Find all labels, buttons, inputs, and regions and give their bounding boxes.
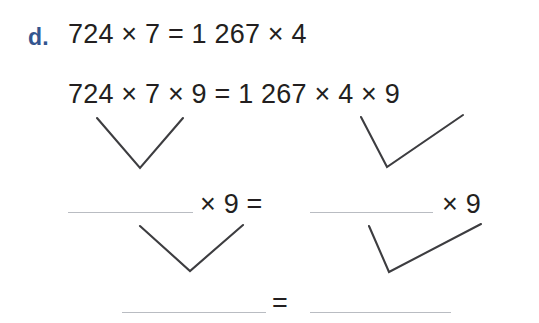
v-arrow-lower-left (140, 225, 243, 271)
equation-line-4-equals: = (272, 288, 288, 319)
answer-blank-line-3-right[interactable] (310, 212, 433, 213)
v-arrow-upper-left (97, 118, 183, 168)
equation-line-3-operator-right: × 9 (442, 189, 481, 220)
equation-line-2: 724 × 7 × 9 = 1 267 × 4 × 9 (68, 79, 400, 110)
v-arrow-upper-right (361, 115, 463, 167)
answer-blank-line-4-right[interactable] (310, 312, 451, 313)
exercise-item-label: d. (28, 24, 49, 51)
answer-blank-line-3-left[interactable] (68, 212, 193, 213)
answer-blank-line-4-left[interactable] (122, 312, 266, 313)
worksheet-exercise: d. 724 × 7 = 1 267 × 4 724 × 7 × 9 = 1 2… (0, 0, 539, 323)
v-arrow-lower-right (369, 224, 481, 272)
equation-line-3-operator-middle: × 9 = (200, 189, 263, 220)
equation-line-1: 724 × 7 = 1 267 × 4 (68, 19, 307, 50)
